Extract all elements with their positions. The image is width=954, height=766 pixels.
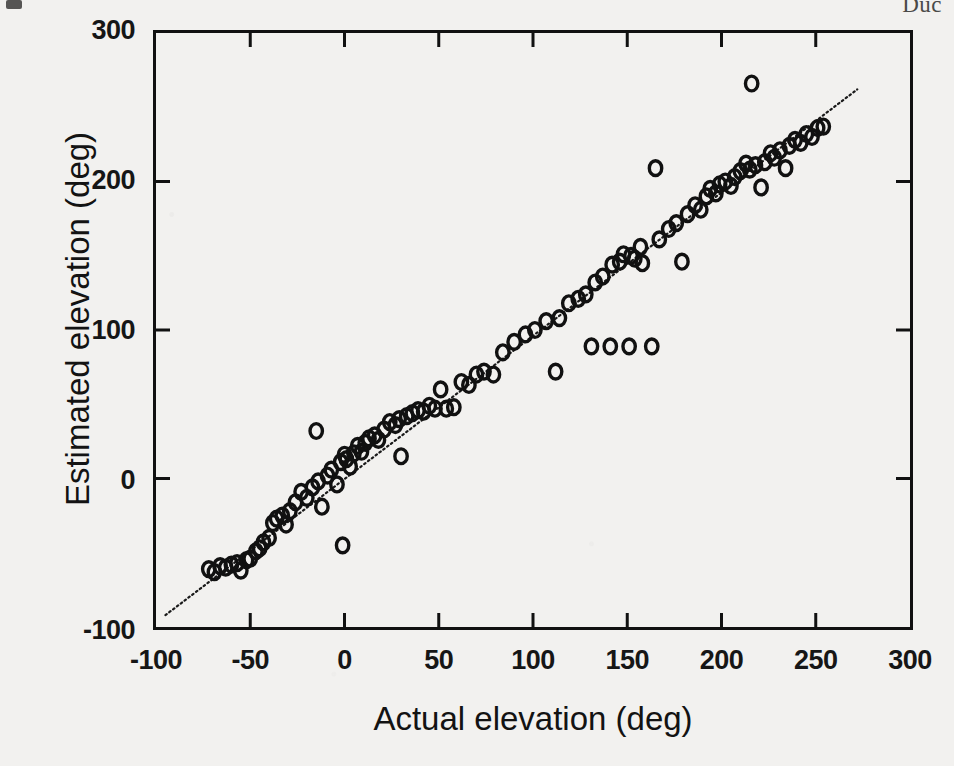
x-tick-label-50: 50 [424,645,453,676]
x-tick-label-0: 0 [337,645,352,676]
data-point [316,499,328,514]
x-tick-label-100: 100 [511,645,555,676]
data-point [549,364,561,379]
data-point [634,239,646,254]
data-point [755,180,767,195]
data-point [434,382,446,397]
x-tick-label--100: -100 [130,645,182,676]
data-point [779,161,791,176]
data-point [395,449,407,464]
x-tick-label-150: 150 [605,645,649,676]
data-point [604,339,616,354]
data-point [623,339,635,354]
x-tick-label-200: 200 [700,645,744,676]
x-tick-label--50: -50 [231,645,269,676]
scatter-plot-canvas [156,33,910,627]
x-tick-label-250: 250 [794,645,838,676]
data-point [310,424,322,439]
data-point [497,345,509,360]
data-point [585,339,597,354]
data-point [745,76,757,91]
data-point-group [203,76,830,579]
header-text-fragment: Duc [902,0,942,18]
data-point [676,254,688,269]
data-point [646,339,658,354]
page-corner-mark [6,0,22,9]
x-axis-title: Actual elevation (deg) [153,700,913,738]
y-axis-title: Estimated elevation (deg) [59,9,97,629]
data-point [649,161,661,176]
plot-area [153,30,913,630]
figure-page: Duc 300 200 100 0 -100 -100-500501001502… [0,0,954,766]
x-tick-label-300: 300 [888,645,932,676]
data-point [336,538,348,553]
data-point [540,314,552,329]
